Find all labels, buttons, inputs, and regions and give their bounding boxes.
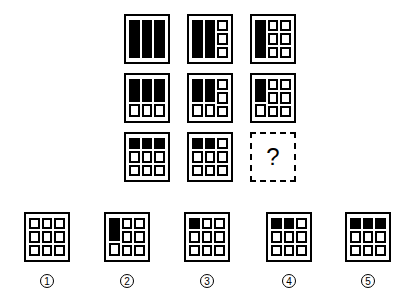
figure-column — [205, 138, 216, 176]
figure-column — [54, 218, 65, 256]
black-cell — [142, 79, 153, 102]
white-cell — [280, 106, 291, 117]
white-cell — [109, 243, 120, 256]
black-cell — [205, 79, 216, 102]
white-cell — [134, 218, 145, 229]
black-cell — [129, 138, 140, 149]
white-cell — [134, 231, 145, 242]
white-cell — [217, 47, 228, 58]
matrix-figure-r1-c3 — [250, 14, 296, 64]
white-cell — [154, 165, 165, 176]
matrix-figure-r2-c2 — [187, 73, 233, 123]
answer-option-4[interactable] — [266, 212, 312, 262]
black-cell — [109, 218, 120, 241]
figure-column — [134, 218, 145, 256]
white-cell — [142, 104, 153, 117]
white-cell — [296, 231, 307, 242]
black-cell — [271, 218, 282, 229]
white-cell — [296, 218, 307, 229]
figure-column — [205, 20, 216, 58]
figure-column — [192, 138, 203, 176]
white-cell — [29, 218, 40, 229]
figure-column — [129, 79, 140, 117]
white-cell — [296, 245, 307, 256]
white-cell — [268, 92, 279, 103]
figure-column — [29, 218, 40, 256]
white-cell — [142, 165, 153, 176]
white-cell — [205, 165, 216, 176]
black-cell — [154, 20, 165, 58]
figure-column — [109, 218, 120, 256]
white-cell — [29, 231, 40, 242]
figure-column — [142, 138, 153, 176]
white-cell — [375, 231, 386, 242]
option-number-1: 1 — [40, 274, 54, 288]
white-cell — [280, 20, 291, 31]
figure-column — [154, 138, 165, 176]
figure-column — [268, 20, 279, 58]
figure-column — [375, 218, 386, 256]
matrix-figure-r3-c1 — [124, 132, 170, 182]
white-cell — [192, 151, 203, 162]
figure-column — [284, 218, 295, 256]
figure-column — [154, 79, 165, 117]
white-cell — [217, 138, 228, 149]
white-cell — [280, 47, 291, 58]
figure-column — [129, 20, 140, 58]
black-cell — [255, 79, 266, 102]
white-cell — [268, 106, 279, 117]
answer-option-1[interactable] — [24, 212, 70, 262]
white-cell — [284, 231, 295, 242]
white-cell — [54, 245, 65, 256]
figure-column — [296, 218, 307, 256]
white-cell — [205, 151, 216, 162]
white-cell — [154, 104, 165, 117]
white-cell — [280, 33, 291, 44]
figure-column — [154, 20, 165, 58]
answer-option-3[interactable] — [184, 212, 230, 262]
white-cell — [375, 245, 386, 256]
black-cell — [129, 79, 140, 102]
figure-column — [217, 138, 228, 176]
black-cell — [192, 20, 203, 58]
figure-column — [268, 79, 279, 117]
figure-column — [192, 20, 203, 58]
black-cell — [363, 218, 374, 229]
white-cell — [142, 151, 153, 162]
figure-column — [280, 20, 291, 58]
white-cell — [122, 245, 133, 256]
white-cell — [42, 218, 53, 229]
white-cell — [129, 165, 140, 176]
white-cell — [214, 245, 225, 256]
white-cell — [122, 231, 133, 242]
white-cell — [217, 33, 228, 44]
black-cell — [205, 20, 216, 58]
white-cell — [122, 218, 133, 229]
figure-column — [350, 218, 361, 256]
black-cell — [154, 138, 165, 149]
black-cell — [192, 79, 203, 102]
white-cell — [202, 218, 213, 229]
white-cell — [42, 231, 53, 242]
answer-option-2[interactable] — [104, 212, 150, 262]
figure-column — [217, 79, 228, 117]
black-cell — [375, 218, 386, 229]
white-cell — [192, 104, 203, 117]
figure-column — [202, 218, 213, 256]
answer-option-5[interactable] — [345, 212, 391, 262]
figure-column — [363, 218, 374, 256]
white-cell — [268, 79, 279, 90]
white-cell — [271, 245, 282, 256]
white-cell — [54, 218, 65, 229]
option-number-4: 4 — [282, 274, 296, 288]
black-cell — [129, 20, 140, 58]
figure-column — [142, 79, 153, 117]
black-cell — [189, 218, 200, 229]
white-cell — [154, 151, 165, 162]
white-cell — [280, 79, 291, 90]
white-cell — [214, 231, 225, 242]
white-cell — [134, 245, 145, 256]
figure-column — [214, 218, 225, 256]
white-cell — [205, 104, 216, 117]
white-cell — [189, 245, 200, 256]
